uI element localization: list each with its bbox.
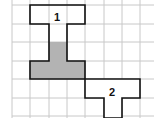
grid-lines (12, 0, 154, 118)
shape-1-label: 1 (54, 11, 60, 23)
grid-diagram: 1 2 (0, 0, 154, 118)
shape-2-outline (85, 79, 140, 118)
shape-2-label: 2 (109, 86, 115, 98)
